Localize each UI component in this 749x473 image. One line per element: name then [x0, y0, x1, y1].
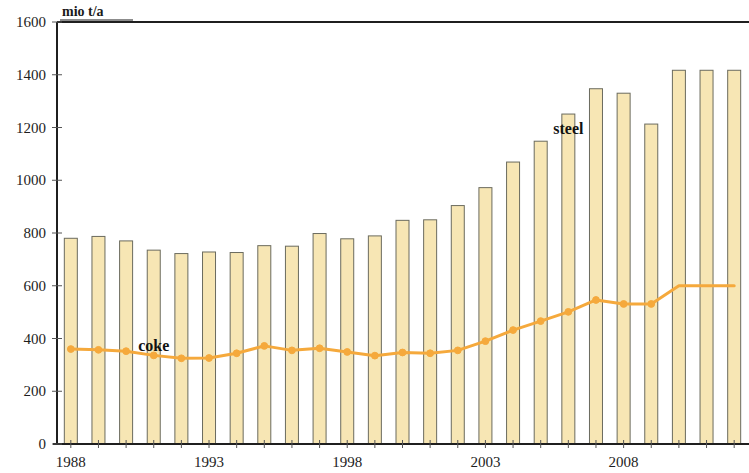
- chart-container: 0200400600800100012001400160019881993199…: [0, 0, 749, 473]
- bar-1994: [230, 253, 243, 444]
- bar-2007: [589, 89, 602, 444]
- coke-point-1990: [123, 348, 130, 355]
- coke-point-2006: [565, 308, 572, 315]
- coke-point-1996: [289, 347, 296, 354]
- coke-point-1997: [316, 345, 323, 352]
- x-tick-label-1993: 1993: [194, 454, 224, 470]
- coke-point-2000: [399, 349, 406, 356]
- y-tick-label-600: 600: [24, 278, 47, 294]
- bar-2010: [672, 70, 685, 444]
- bar-1988: [64, 238, 77, 444]
- steel-coke-chart: 0200400600800100012001400160019881993199…: [0, 0, 749, 473]
- bar-1990: [120, 241, 133, 444]
- y-tick-label-400: 400: [24, 331, 47, 347]
- coke-point-2001: [427, 350, 434, 357]
- y-tick-label-0: 0: [39, 436, 47, 452]
- bar-2000: [396, 220, 409, 444]
- coke-point-1993: [206, 355, 213, 362]
- y-tick-label-200: 200: [24, 383, 47, 399]
- bar-1989: [92, 236, 105, 444]
- y-tick-label-1000: 1000: [16, 172, 46, 188]
- bar-2011: [700, 70, 713, 444]
- coke-point-1999: [371, 352, 378, 359]
- coke-point-1989: [95, 346, 102, 353]
- coke-point-1992: [178, 355, 185, 362]
- coke-point-1998: [344, 349, 351, 356]
- coke-point-2009: [648, 301, 655, 308]
- coke-point-1995: [261, 342, 268, 349]
- bar-2012: [728, 70, 741, 444]
- bar-2008: [617, 93, 630, 444]
- bar-1993: [203, 252, 216, 444]
- coke-point-2008: [620, 301, 627, 308]
- x-tick-label-1988: 1988: [56, 454, 86, 470]
- bar-2004: [507, 162, 520, 444]
- coke-point-2004: [510, 327, 517, 334]
- coke-point-2003: [482, 338, 489, 345]
- y-tick-label-1600: 1600: [16, 14, 46, 30]
- bar-1992: [175, 254, 188, 444]
- y-axis-ticks: 02004006008001000120014001600: [16, 14, 62, 452]
- bar-2002: [451, 206, 464, 444]
- coke-point-1994: [233, 350, 240, 357]
- x-tick-label-2008: 2008: [609, 454, 639, 470]
- coke-point-2005: [537, 318, 544, 325]
- bar-1996: [285, 246, 298, 444]
- unit-caption-group: mio t/a: [60, 4, 133, 20]
- coke-point-2007: [593, 297, 600, 304]
- y-tick-label-800: 800: [24, 225, 47, 241]
- bar-2001: [424, 220, 437, 444]
- y-tick-label-1200: 1200: [16, 120, 46, 136]
- bar-2006: [562, 114, 575, 444]
- series-label-coke: coke: [138, 337, 169, 354]
- series-label-steel: steel: [553, 120, 584, 137]
- bar-series-steel: [64, 70, 740, 444]
- bar-1998: [341, 239, 354, 444]
- bar-2009: [645, 124, 658, 444]
- y-tick-label-1400: 1400: [16, 67, 46, 83]
- coke-point-1988: [67, 346, 74, 353]
- bar-2005: [534, 141, 547, 444]
- unit-caption: mio t/a: [62, 4, 104, 19]
- plot-area: [64, 70, 740, 444]
- bar-1999: [368, 236, 381, 444]
- bar-2003: [479, 188, 492, 444]
- x-tick-label-1998: 1998: [332, 454, 362, 470]
- bar-1997: [313, 234, 326, 444]
- coke-point-2002: [454, 347, 461, 354]
- x-tick-label-2003: 2003: [470, 454, 500, 470]
